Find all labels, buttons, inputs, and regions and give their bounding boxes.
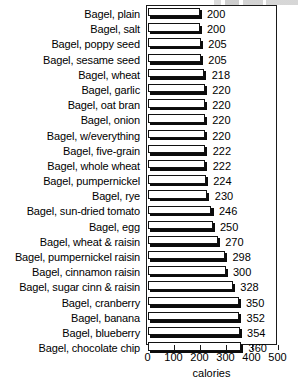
category-label: Bagel, sugar cinn & raisin	[0, 280, 143, 295]
category-label: Bagel, wheat & raisin	[0, 235, 143, 250]
category-label-column: Bagel, plainBagel, saltBagel, poppy seed…	[0, 7, 143, 356]
category-label: Bagel, banana	[0, 311, 143, 326]
x-axis-tick	[226, 345, 227, 350]
bar-row: 222	[148, 144, 278, 159]
bar-row: 224	[148, 174, 278, 189]
category-label: Bagel, garlic	[0, 83, 143, 98]
category-label: Bagel, pumpernickel raisin	[0, 250, 143, 265]
bar-row: 200	[148, 7, 278, 22]
x-axis-tick-label: 200	[190, 351, 208, 363]
bar-value-label: 218	[207, 68, 230, 83]
bar-row: 300	[148, 265, 278, 280]
bar-value-label: 224	[209, 174, 232, 189]
category-label: Bagel, plain	[0, 7, 143, 22]
bar-row: 352	[148, 311, 278, 326]
bar	[148, 236, 218, 244]
bar-value-label: 328	[236, 280, 259, 295]
category-label: Bagel, egg	[0, 220, 143, 235]
x-axis: calories 0100200300400500	[146, 345, 277, 385]
x-axis-tick	[278, 345, 279, 350]
bar-value-label: 250	[216, 220, 239, 235]
category-label: Bagel, cinnamon raisin	[0, 265, 143, 280]
x-axis-tick	[174, 345, 175, 350]
bar	[148, 251, 225, 259]
bar	[148, 130, 205, 138]
x-axis-tick-label: 100	[164, 351, 182, 363]
category-label: Bagel, wheat	[0, 68, 143, 83]
bar-value-label: 220	[208, 129, 231, 144]
bar	[148, 23, 200, 31]
category-label: Bagel, oat bran	[0, 98, 143, 113]
bar-series: 2002002052052182202202202202222222242302…	[148, 7, 278, 345]
bar-value-label: 298	[228, 250, 251, 265]
bar	[148, 327, 240, 335]
bar	[148, 312, 240, 320]
category-label: Bagel, sun-dried tomato	[0, 204, 143, 219]
x-axis-tick-label: 400	[242, 351, 260, 363]
bar-row: 230	[148, 189, 278, 204]
category-label: Bagel, whole wheat	[0, 159, 143, 174]
category-label: Bagel, cranberry	[0, 296, 143, 311]
bar	[148, 297, 239, 305]
bar-value-label: 246	[214, 204, 237, 219]
bar	[148, 221, 213, 229]
bar	[148, 84, 205, 92]
category-label: Bagel, chocolate chip	[0, 341, 143, 356]
bar-row: 222	[148, 159, 278, 174]
bar	[148, 190, 208, 198]
bar	[148, 99, 205, 107]
bar-row: 200	[148, 22, 278, 37]
category-label: Bagel, blueberry	[0, 326, 143, 341]
bar-value-label: 222	[208, 144, 231, 159]
bar-row: 220	[148, 129, 278, 144]
category-label: Bagel, five-grain	[0, 144, 143, 159]
bar-row: 218	[148, 68, 278, 83]
bar	[148, 175, 206, 183]
bar-row: 354	[148, 326, 278, 341]
category-label: Bagel, onion	[0, 113, 143, 128]
bar	[148, 8, 200, 16]
bar-row: 350	[148, 296, 278, 311]
bar-value-label: 352	[242, 311, 265, 326]
bagel-calories-bar-chart: Bagel, plainBagel, saltBagel, poppy seed…	[0, 0, 304, 385]
bar-value-label: 200	[203, 7, 226, 22]
bar	[148, 69, 205, 77]
category-label: Bagel, salt	[0, 22, 143, 37]
bar-row: 246	[148, 204, 278, 219]
bar-value-label: 222	[208, 159, 231, 174]
bar-value-label: 220	[208, 113, 231, 128]
x-axis-tick-label: 0	[144, 351, 150, 363]
bar-value-label: 205	[204, 53, 227, 68]
category-label: Bagel, sesame seed	[0, 53, 143, 68]
bar	[148, 114, 205, 122]
bar-value-label: 350	[242, 296, 265, 311]
bar-row: 220	[148, 83, 278, 98]
category-label: Bagel, pumpernickel	[0, 174, 143, 189]
bar-value-label: 220	[208, 83, 231, 98]
bar-value-label: 205	[204, 37, 227, 52]
x-axis-tick	[252, 345, 253, 350]
bar-row: 220	[148, 98, 278, 113]
bar-value-label: 200	[203, 22, 226, 37]
x-axis-title: calories	[193, 367, 231, 379]
bar	[148, 281, 233, 289]
bar-row: 328	[148, 280, 278, 295]
bar	[148, 145, 206, 153]
x-axis-tick-label: 300	[216, 351, 234, 363]
bar	[148, 38, 201, 46]
category-label: Bagel, rye	[0, 189, 143, 204]
bar-value-label: 300	[229, 265, 252, 280]
bar-row: 220	[148, 113, 278, 128]
bar-value-label: 354	[243, 326, 266, 341]
bar	[148, 54, 201, 62]
bar-row: 298	[148, 250, 278, 265]
bar-value-label: 220	[208, 98, 231, 113]
category-label: Bagel, poppy seed	[0, 37, 143, 52]
bar-row: 205	[148, 37, 278, 52]
category-label: Bagel, w/everything	[0, 129, 143, 144]
x-axis-tick	[148, 345, 149, 350]
bar-value-label: 270	[221, 235, 244, 250]
bar	[148, 206, 212, 214]
bar-value-label: 230	[210, 189, 233, 204]
bar	[148, 160, 206, 168]
